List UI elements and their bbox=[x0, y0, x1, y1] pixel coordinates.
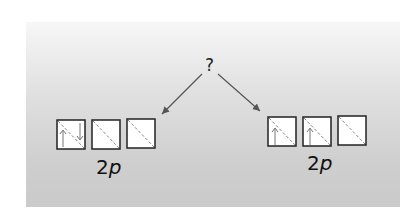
label-letter: p bbox=[109, 155, 122, 179]
left-orbital-label: 2p bbox=[96, 155, 121, 179]
left-orbital-2 bbox=[92, 120, 120, 149]
right-orbital-3 bbox=[338, 116, 366, 145]
left-orbital-3 bbox=[127, 119, 155, 148]
arrow-right bbox=[218, 74, 260, 111]
right-orbital-1 bbox=[268, 117, 296, 146]
right-orbital-label: 2p bbox=[307, 151, 332, 175]
diagram-graphics bbox=[0, 0, 418, 216]
left-orbital-1 bbox=[57, 120, 85, 149]
arrow-left bbox=[162, 74, 202, 114]
label-letter: p bbox=[320, 151, 333, 175]
right-orbital-2 bbox=[303, 117, 331, 146]
label-number: 2 bbox=[96, 155, 109, 179]
label-number: 2 bbox=[307, 151, 320, 175]
question-mark: ? bbox=[205, 55, 214, 75]
